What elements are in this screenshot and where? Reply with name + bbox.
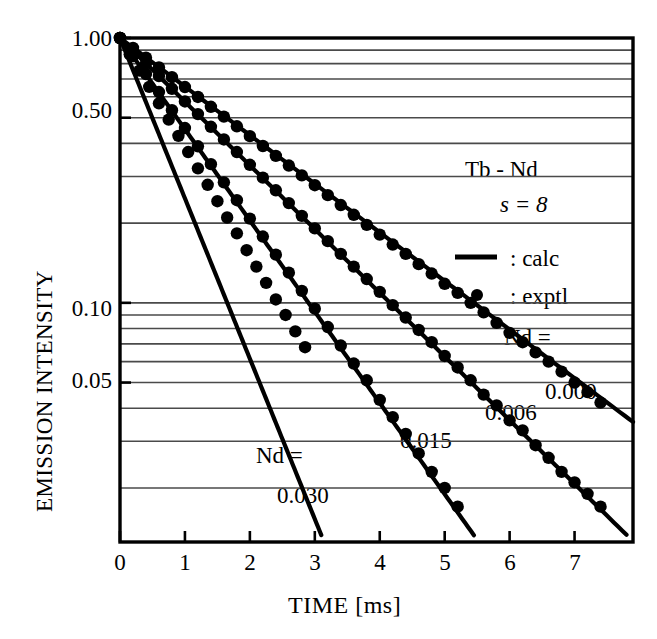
data-point [387,299,399,311]
data-point [426,267,438,279]
data-point [270,293,282,305]
data-point [400,311,412,323]
data-point [218,176,230,188]
data-point [211,195,223,207]
data-point [348,209,360,221]
data-point [426,336,438,348]
data-point [309,303,321,315]
data-point [231,146,243,158]
data-point [296,285,308,297]
data-point [568,476,580,488]
data-point [335,199,347,211]
data-point [529,439,541,451]
data-point [490,317,502,329]
data-point [270,184,282,196]
data-point [260,277,272,289]
data-point [322,321,334,333]
data-point [322,189,334,201]
data-point [335,248,347,260]
data-point [464,374,476,386]
data-point [218,110,230,122]
data-point [153,97,165,109]
data-point [192,162,204,174]
data-point [296,210,308,222]
data-point [451,500,463,512]
data-point [289,325,301,337]
data-point [279,309,291,321]
data-point [348,357,360,369]
data-point [555,365,567,377]
data-point [413,447,425,459]
data-point [244,130,256,142]
data-point [166,83,178,95]
data-point [400,428,412,440]
data-point [322,235,334,247]
data-point [374,286,386,298]
data-point [299,341,311,353]
data-point [153,70,165,82]
data-point [568,376,580,388]
data-point [163,113,175,125]
data-point [438,278,450,290]
data-point [451,287,463,299]
data-point [516,424,528,436]
data-point [542,355,554,367]
data-point [335,339,347,351]
data-point [257,140,269,152]
data-point [205,101,217,113]
data-point [192,108,204,120]
data-point [257,230,269,242]
data-point [283,159,295,171]
data-point [361,273,373,285]
data-point [594,500,606,512]
data-point [387,411,399,423]
data-point [516,336,528,348]
data-point [477,388,489,400]
data-point [221,211,233,223]
data-point [413,258,425,270]
data-point [503,327,515,339]
data-point [361,374,373,386]
data-point [250,260,262,272]
data-point [133,64,145,76]
data-point [413,324,425,336]
data-point [542,452,554,464]
curves-group [114,32,633,535]
data-point [143,81,155,93]
data-point [270,248,282,260]
data-point [296,169,308,181]
data-point [270,150,282,162]
data-point [283,266,295,278]
data-point [309,179,321,191]
data-point [172,130,184,142]
data-point [438,482,450,494]
data-point [124,48,136,60]
data-point [205,121,217,133]
emission-intensity-decay-chart: EMISSION INTENSITY TIME [ms] 1.00 0.50 0… [0,0,657,639]
data-point [361,219,373,231]
data-point [438,350,450,362]
data-point [581,488,593,500]
data-point [400,248,412,260]
data-point [166,71,178,83]
legend-exptl-dot-icon [471,289,483,301]
data-point [205,158,217,170]
data-point [490,399,502,411]
data-point [231,227,243,239]
data-point [179,81,191,93]
data-point [231,120,243,132]
data-point [555,466,567,478]
data-point [192,91,204,103]
data-point [426,466,438,478]
data-point [309,222,321,234]
data-point [529,346,541,358]
data-point [218,133,230,145]
data-point [240,244,252,256]
data-point [348,260,360,272]
data-point [244,212,256,224]
data-point [201,179,213,191]
data-point [244,159,256,171]
data-point [182,146,194,158]
data-point [594,396,606,408]
data-point [374,394,386,406]
